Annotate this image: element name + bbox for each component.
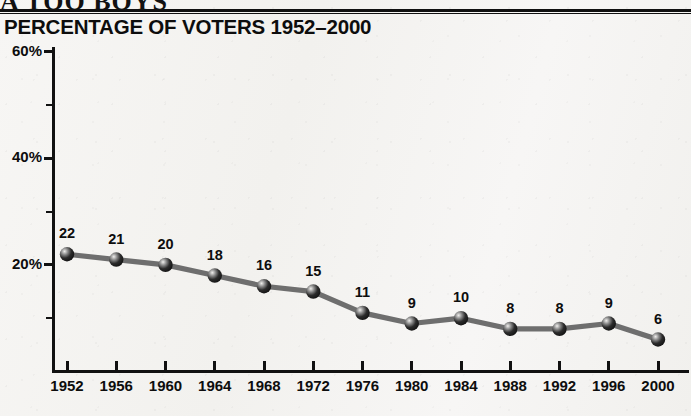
data-point-marker[interactable]	[60, 247, 74, 261]
x-axis-label: 1964	[198, 377, 231, 394]
x-axis-label: 1956	[100, 377, 133, 394]
x-axis-label: 1980	[395, 377, 428, 394]
data-point-marker[interactable]	[454, 311, 468, 325]
data-point-label: 16	[256, 257, 272, 273]
data-point-marker[interactable]	[503, 322, 517, 336]
data-point-label: 8	[555, 300, 563, 316]
chart-plot-area: 20%40%60% 222120181615119108896 19521956…	[0, 0, 691, 416]
data-point-label: 10	[453, 289, 469, 305]
x-axis-label: 1984	[444, 377, 477, 394]
x-axis-label: 1996	[592, 377, 625, 394]
data-point-label: 11	[355, 284, 370, 300]
data-point-marker[interactable]	[306, 284, 320, 298]
data-point-marker[interactable]	[355, 306, 369, 320]
data-point-label: 20	[157, 236, 173, 252]
x-axis-label: 1988	[494, 377, 527, 394]
data-point-label: 21	[108, 231, 124, 247]
data-point-marker[interactable]	[208, 268, 222, 282]
data-point-marker[interactable]	[405, 316, 419, 330]
data-point-label: 18	[207, 247, 223, 263]
x-axis-label: 1952	[50, 377, 83, 394]
data-point-marker[interactable]	[552, 322, 566, 336]
series-line-and-markers	[0, 0, 691, 416]
data-point-marker[interactable]	[109, 252, 123, 266]
data-point-marker[interactable]	[257, 279, 271, 293]
data-point-marker[interactable]	[651, 332, 665, 346]
x-axis-label: 1960	[149, 377, 182, 394]
x-axis-label: 1972	[297, 377, 330, 394]
x-axis-label: 1968	[247, 377, 280, 394]
chart-page: A TOO BOYS PERCENTAGE OF VOTERS 1952–200…	[0, 0, 691, 416]
x-axis-label: 2000	[641, 377, 674, 394]
data-point-label: 15	[305, 263, 321, 279]
data-point-label: 6	[654, 311, 662, 327]
x-axis-label: 1976	[346, 377, 379, 394]
data-point-label: 9	[408, 295, 416, 311]
x-axis-label: 1992	[543, 377, 576, 394]
data-point-marker[interactable]	[602, 316, 616, 330]
data-point-label: 9	[605, 295, 613, 311]
data-point-label: 22	[59, 225, 75, 241]
data-point-label: 8	[506, 300, 514, 316]
data-point-marker[interactable]	[158, 258, 172, 272]
